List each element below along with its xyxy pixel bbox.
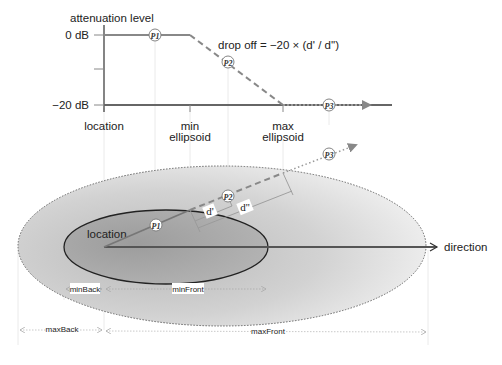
y-tick-minus20db: −20 dB (52, 99, 89, 111)
chart-point-p3: P3 (323, 99, 335, 111)
svg-text:P2: P2 (224, 59, 233, 68)
svg-text:P3: P3 (325, 151, 334, 160)
svg-text:P1: P1 (151, 32, 160, 41)
attenuation-diagram: attenuation level 0 dB −20 dB drop off =… (0, 0, 502, 365)
svg-text:d'': d'' (240, 201, 249, 213)
ray-point-p2: P2 (222, 190, 234, 202)
ray-point-p3: P3 (323, 148, 335, 160)
x-tick-max-ellipsoid: ellipsoid (262, 131, 304, 143)
min-front-label: minFront (172, 285, 204, 294)
svg-text:P3: P3 (325, 102, 334, 111)
min-back-label: minBack (70, 285, 102, 294)
formula-label: drop off = −20 × (d' / d'') (218, 39, 339, 51)
ray-dotted (283, 145, 356, 173)
chart-point-p2: P2 (222, 56, 234, 68)
x-tick-location: location (84, 120, 124, 132)
max-back-label: maxBack (46, 325, 80, 334)
x-tick-min-ellipsoid: ellipsoid (169, 131, 211, 143)
ellipsoid-diagram: direction location d' d'' P1 P (18, 145, 487, 337)
svg-text:P1: P1 (152, 222, 161, 231)
ray-point-p1: P1 (150, 219, 162, 231)
location-label: location (87, 228, 127, 240)
y-axis-title: attenuation level (70, 12, 154, 24)
y-tick-0db: 0 dB (65, 29, 89, 41)
svg-text:d': d' (206, 205, 214, 217)
attenuation-chart: attenuation level 0 dB −20 dB drop off =… (52, 12, 392, 143)
max-front-label: maxFront (251, 327, 286, 336)
svg-text:P2: P2 (224, 193, 233, 202)
direction-label: direction (444, 241, 487, 253)
chart-point-p1: P1 (149, 29, 161, 41)
